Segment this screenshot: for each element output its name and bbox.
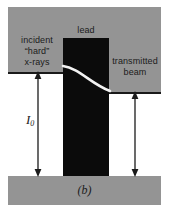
absorber-slab-upper-right [109, 7, 161, 93]
transmitted-intensity-arrow [127, 90, 143, 178]
incident-intensity-arrow [30, 70, 46, 178]
lead-attenuator-block [63, 38, 109, 176]
beam-attenuation-curve-icon [63, 64, 110, 96]
label-lead: lead [63, 25, 109, 36]
label-transmitted-beam: transmitted beam [107, 56, 163, 78]
label-incident-hard-x-rays: incident “hard” x-rays [12, 35, 62, 68]
figure-container: incident “hard” x-rays lead transmitted … [0, 0, 169, 213]
figure-caption: (b) [8, 183, 161, 198]
